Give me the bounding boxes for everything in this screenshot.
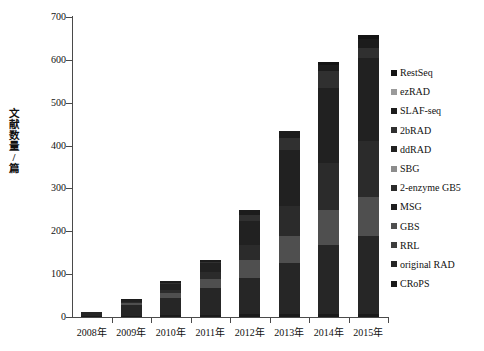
chart-legend: RestSeqezRADSLAF-seq2bRADddRADSBG2-enzym… bbox=[391, 63, 483, 293]
legend-item[interactable]: MSG bbox=[391, 197, 483, 216]
x-axis-tick bbox=[270, 317, 271, 323]
legend-item[interactable]: 2-enzyme GB5 bbox=[391, 178, 483, 197]
legend-swatch-icon bbox=[391, 70, 397, 76]
legend-swatch-icon bbox=[391, 166, 397, 172]
bar-segment bbox=[200, 262, 221, 264]
bar-segment bbox=[279, 150, 300, 206]
legend-swatch-icon bbox=[391, 242, 397, 248]
bar-segment bbox=[358, 141, 379, 197]
legend-item-label: 2bRAD bbox=[400, 125, 431, 136]
stacked-bar-chart: 文献数量/篇 0100200300400500600700 2008年2009年… bbox=[0, 0, 484, 351]
y-axis-title-char: 数 bbox=[6, 130, 22, 141]
x-axis-tick bbox=[309, 317, 310, 323]
bar-segment bbox=[200, 263, 221, 272]
legend-item-label: CRoPS bbox=[400, 278, 429, 289]
y-axis-tick bbox=[66, 317, 72, 318]
y-axis-tick-label: 500 bbox=[32, 98, 66, 108]
legend-item-label: ddRAD bbox=[400, 144, 431, 155]
y-axis-tick-label: 600 bbox=[32, 55, 66, 65]
x-axis-tick-label: 2013年 bbox=[267, 327, 311, 338]
y-axis-title-char: / bbox=[6, 152, 22, 163]
y-axis-title-char: 篇 bbox=[6, 163, 22, 174]
legend-item[interactable]: RRL bbox=[391, 236, 483, 255]
legend-item[interactable]: RestSeq bbox=[391, 63, 483, 82]
bar-segment bbox=[239, 278, 260, 314]
bar-segment bbox=[121, 302, 142, 303]
bar-segment bbox=[239, 215, 260, 221]
bar-segment bbox=[239, 221, 260, 245]
bar-segment bbox=[358, 314, 379, 317]
legend-swatch-icon bbox=[391, 223, 397, 229]
legend-item-label: SBG bbox=[400, 163, 419, 174]
bar-segment bbox=[200, 260, 221, 261]
bar-segment bbox=[121, 303, 142, 305]
x-axis-tick-label: 2015年 bbox=[346, 327, 390, 338]
y-axis-tick-label: 200 bbox=[32, 226, 66, 236]
x-axis-tick bbox=[112, 317, 113, 323]
legend-swatch-icon bbox=[391, 261, 397, 267]
x-axis-tick bbox=[349, 317, 350, 323]
legend-item-label: ezRAD bbox=[400, 86, 430, 97]
bar-segment bbox=[358, 39, 379, 48]
y-axis-tick-label: 100 bbox=[32, 269, 66, 279]
bar-segment bbox=[200, 315, 221, 317]
bar-segment bbox=[318, 314, 339, 317]
x-axis-tick bbox=[230, 317, 231, 323]
x-axis-tick-label: 2012年 bbox=[228, 327, 272, 338]
bar-segment bbox=[121, 316, 142, 317]
legend-item-label: RestSeq bbox=[400, 67, 433, 78]
bar-segment bbox=[200, 279, 221, 288]
bar-segment bbox=[279, 138, 300, 150]
y-axis-title-char: 文 bbox=[6, 108, 22, 119]
legend-item-label: SLAF-seq bbox=[400, 105, 441, 116]
bar-segment bbox=[318, 163, 339, 210]
x-axis-tick-label: 2008年 bbox=[70, 327, 114, 338]
legend-swatch-icon bbox=[391, 127, 397, 133]
legend-item[interactable]: CRoPS bbox=[391, 274, 483, 293]
legend-swatch-icon bbox=[391, 89, 397, 95]
bar-segment bbox=[279, 131, 300, 139]
bar-segment bbox=[358, 48, 379, 57]
bar-column bbox=[81, 17, 102, 317]
bar-column bbox=[200, 17, 221, 317]
bar-segment bbox=[81, 312, 102, 316]
bar-segment bbox=[318, 245, 339, 314]
bar-segment bbox=[121, 300, 142, 302]
bar-segment bbox=[279, 236, 300, 263]
bar-column bbox=[318, 17, 339, 317]
plot-area bbox=[72, 17, 388, 317]
legend-swatch-icon bbox=[391, 146, 397, 152]
bar-segment bbox=[160, 290, 181, 293]
x-axis-tick-label: 2010年 bbox=[149, 327, 193, 338]
x-axis-tick bbox=[191, 317, 192, 323]
legend-item[interactable]: 2bRAD bbox=[391, 121, 483, 140]
legend-item[interactable]: SLAF-seq bbox=[391, 101, 483, 120]
bar-segment bbox=[81, 316, 102, 317]
legend-item-label: RRL bbox=[400, 240, 419, 251]
legend-item-label: original RAD bbox=[400, 259, 455, 270]
y-axis-tick-label: 0 bbox=[32, 312, 66, 322]
bar-segment bbox=[239, 245, 260, 260]
bar-segment bbox=[358, 58, 379, 142]
legend-item[interactable]: SBG bbox=[391, 159, 483, 178]
legend-item-label: 2-enzyme GB5 bbox=[400, 182, 461, 193]
bar-column bbox=[121, 17, 142, 317]
bar-segment bbox=[239, 314, 260, 317]
bar-segment bbox=[200, 288, 221, 315]
bar-segment bbox=[239, 210, 260, 216]
legend-swatch-icon bbox=[391, 281, 397, 287]
legend-item[interactable]: GBS bbox=[391, 217, 483, 236]
bar-segment bbox=[279, 314, 300, 317]
bar-segment bbox=[239, 260, 260, 278]
y-axis-tick-label: 300 bbox=[32, 183, 66, 193]
x-axis-tick bbox=[388, 317, 389, 323]
y-axis-tick-label: 400 bbox=[32, 141, 66, 151]
bar-segment bbox=[160, 283, 181, 285]
legend-item[interactable]: ezRAD bbox=[391, 82, 483, 101]
bar-column bbox=[358, 17, 379, 317]
bar-segment bbox=[318, 62, 339, 65]
legend-item[interactable]: ddRAD bbox=[391, 140, 483, 159]
legend-item[interactable]: original RAD bbox=[391, 255, 483, 274]
bar-segment bbox=[200, 272, 221, 279]
x-axis-tick bbox=[151, 317, 152, 323]
